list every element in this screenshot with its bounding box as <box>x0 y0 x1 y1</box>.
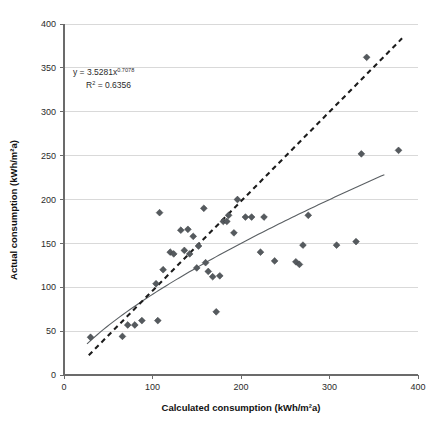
r-squared-line: R2 = 0.6356 <box>86 80 131 90</box>
y-tick-label: 150 <box>41 239 56 249</box>
x-axis-tick-labels: 0100200300400 <box>61 382 425 392</box>
data-point <box>300 242 307 249</box>
data-point <box>271 258 278 265</box>
data-point <box>231 229 238 236</box>
scatter-chart: 050100150200250300350400 0100200300400 y… <box>0 0 440 436</box>
data-point <box>209 273 216 280</box>
data-point <box>216 272 223 279</box>
y-axis-tick-labels: 050100150200250300350400 <box>41 19 56 380</box>
y-axis-title: Actual consumption (kWh/m²a) <box>8 140 19 280</box>
data-point <box>156 209 163 216</box>
data-point <box>177 227 184 234</box>
data-point <box>119 333 126 340</box>
y-axis-ticks <box>60 24 64 375</box>
data-point <box>305 212 312 219</box>
x-tick-label: 300 <box>322 382 337 392</box>
data-point <box>124 322 131 329</box>
data-point <box>358 150 365 157</box>
x-tick-label: 100 <box>145 382 160 392</box>
data-point <box>185 226 192 233</box>
data-point <box>153 280 160 287</box>
y-tick-label: 100 <box>41 282 56 292</box>
x-tick-label: 200 <box>233 382 248 392</box>
data-point <box>190 233 197 240</box>
equation-prefix: y = 3.5281x <box>73 67 118 77</box>
data-point <box>242 214 249 221</box>
x-tick-label: 0 <box>61 382 66 392</box>
x-axis-ticks <box>64 375 418 379</box>
y-tick-label: 250 <box>41 151 56 161</box>
data-point <box>160 266 167 273</box>
data-point <box>202 259 209 266</box>
equation-annotation: y = 3.5281x0.7078 R2 = 0.6356 <box>73 67 134 90</box>
data-point <box>138 317 145 324</box>
data-point <box>213 308 220 315</box>
data-point <box>225 212 232 219</box>
data-point <box>257 249 264 256</box>
data-point <box>87 334 94 341</box>
data-point <box>154 317 161 324</box>
y-tick-label: 400 <box>41 19 56 29</box>
y-tick-label: 50 <box>46 326 56 336</box>
data-point <box>234 196 241 203</box>
data-point <box>353 238 360 245</box>
data-point <box>363 54 370 61</box>
equation-exponent: 0.7078 <box>117 67 134 73</box>
data-point <box>333 242 340 249</box>
x-tick-label: 400 <box>410 382 425 392</box>
y-tick-label: 0 <box>51 370 56 380</box>
data-point <box>181 247 188 254</box>
data-point <box>205 268 212 275</box>
parity-dashed-trendline <box>89 38 402 355</box>
chart-container: 050100150200250300350400 0100200300400 y… <box>0 0 440 436</box>
data-point <box>131 322 138 329</box>
data-point <box>261 214 268 221</box>
x-axis-title: Calculated consumption (kWh/m²a) <box>162 402 321 413</box>
data-points <box>87 54 402 341</box>
equation-line: y = 3.5281x0.7078 <box>73 67 134 77</box>
data-point <box>200 205 207 212</box>
y-tick-label: 350 <box>41 63 56 73</box>
y-tick-label: 200 <box>41 195 56 205</box>
data-point <box>248 214 255 221</box>
data-point <box>193 265 200 272</box>
data-point <box>395 147 402 154</box>
y-tick-label: 300 <box>41 107 56 117</box>
r-squared-value: = 0.6356 <box>95 80 131 90</box>
